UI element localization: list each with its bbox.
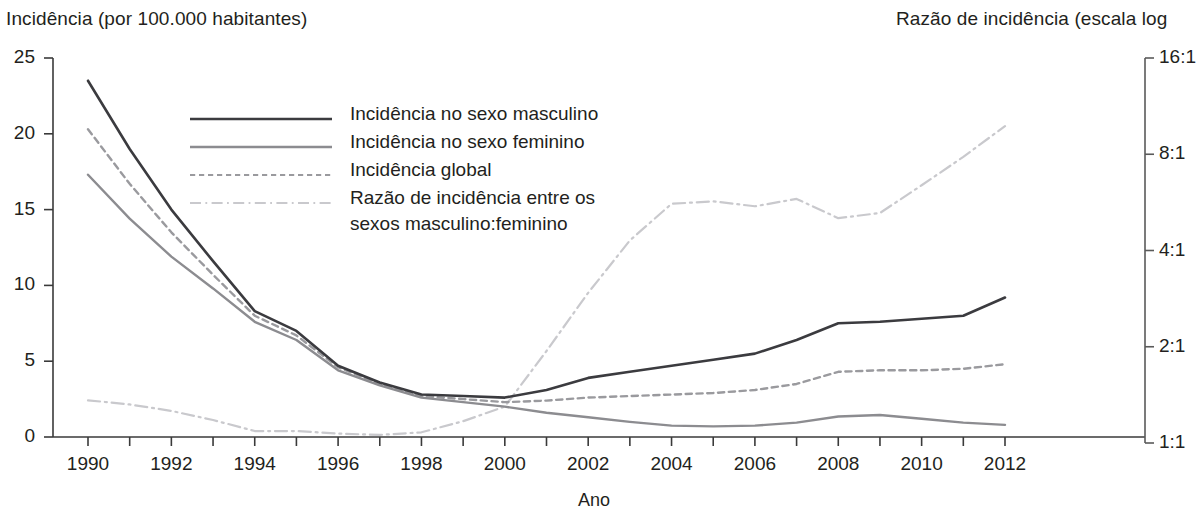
x-axis-tick-label: 1992	[136, 453, 206, 475]
x-axis-tick-label: 2012	[970, 453, 1040, 475]
x-axis-tick-label: 2008	[803, 453, 873, 475]
y-axis-tick-label-left: 25	[0, 46, 35, 68]
legend-label: Incidência no sexo masculino	[350, 101, 598, 127]
y-axis-tick-label-right: 2:1	[1159, 335, 1196, 357]
x-axis-tick-label: 2002	[553, 453, 623, 475]
y-axis-tick-label-right: 16:1	[1159, 46, 1196, 68]
x-axis-tick-label: 1998	[386, 453, 456, 475]
y-axis-tick-label-left: 15	[0, 198, 35, 220]
legend-swatch	[190, 168, 332, 182]
x-axis-tick-label: 2006	[720, 453, 790, 475]
legend-swatch	[190, 112, 332, 126]
plot-area	[0, 0, 1196, 519]
y-axis-tick-label-right: 8:1	[1159, 142, 1196, 164]
x-axis-tick-label: 1990	[53, 453, 123, 475]
x-axis-tick-label: 1994	[220, 453, 290, 475]
legend-swatch	[190, 140, 332, 154]
y-axis-tick-label-left: 10	[0, 273, 35, 295]
x-axis-tick-label: 2000	[470, 453, 540, 475]
x-axis-tick-label: 1996	[303, 453, 373, 475]
legend-swatch	[190, 196, 332, 210]
y-axis-tick-label-left: 0	[0, 425, 35, 447]
y-axis-tick-label-right: 4:1	[1159, 239, 1196, 261]
x-axis-tick-label: 2010	[887, 453, 957, 475]
chart-figure: Incidência (por 100.000 habitantes) Razã…	[0, 0, 1196, 519]
legend-label-line2: sexos masculino:feminino	[350, 211, 568, 237]
x-axis-tick-label: 2004	[637, 453, 707, 475]
y-axis-tick-label-left: 20	[0, 122, 35, 144]
y-axis-tick-label-right: 1:1	[1159, 431, 1196, 453]
y-axis-tick-label-left: 5	[0, 349, 35, 371]
legend-label: Incidência no sexo feminino	[350, 129, 584, 155]
legend-label: Incidência global	[350, 157, 492, 183]
legend-label: Razão de incidência entre os	[350, 185, 595, 211]
